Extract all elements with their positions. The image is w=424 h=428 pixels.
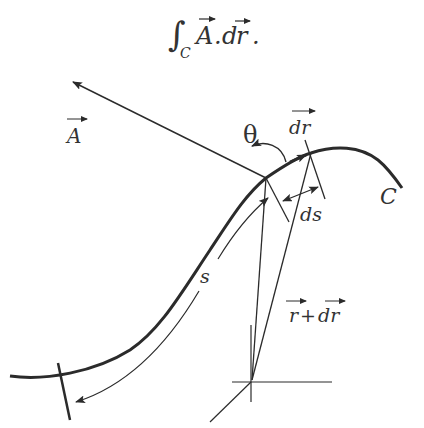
curve-start-tick bbox=[58, 363, 70, 420]
line-integral-diagram: ∫ C A . d r . A θ dr C ds s bbox=[0, 0, 424, 428]
curve-c bbox=[10, 148, 402, 377]
title-period: . bbox=[252, 22, 260, 50]
vector-a-arrow bbox=[73, 82, 266, 178]
position-r-symbol: r bbox=[236, 22, 249, 50]
curve-direction-arrow bbox=[290, 155, 306, 162]
field-a-symbol: A bbox=[194, 22, 213, 50]
dot-product-symbol: . bbox=[214, 22, 222, 50]
label-r: r bbox=[289, 304, 300, 326]
label-dr: dr bbox=[289, 111, 315, 138]
label-a: A bbox=[65, 124, 81, 148]
label-r-plus-dr: r + dr bbox=[286, 301, 345, 326]
integral-subscript-c: C bbox=[180, 45, 191, 61]
label-s: s bbox=[200, 265, 210, 287]
origin-z-axis bbox=[210, 382, 251, 422]
position-vector-r-plus-dr bbox=[252, 153, 311, 380]
position-vector-r bbox=[252, 178, 266, 380]
label-vector-a: A bbox=[65, 119, 87, 148]
label-theta: θ bbox=[243, 121, 257, 149]
label-plus: + bbox=[300, 304, 316, 326]
label-ds: ds bbox=[300, 203, 322, 225]
integral-expression: ∫ C A . d r . bbox=[168, 14, 260, 61]
label-dr-text: dr bbox=[289, 116, 312, 138]
arc-length-s-lower bbox=[76, 291, 199, 402]
label-curve-c: C bbox=[380, 184, 397, 209]
label-dr2: dr bbox=[318, 304, 341, 326]
